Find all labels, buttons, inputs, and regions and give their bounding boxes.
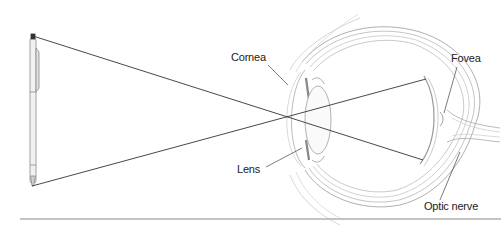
ray-bottom-to-top bbox=[32, 79, 426, 186]
label-fovea: Fovea bbox=[451, 52, 481, 64]
eye-diagram: Cornea Lens Fovea Optic nerve bbox=[0, 0, 501, 233]
pen-illustration bbox=[30, 34, 39, 186]
diagram-canvas bbox=[0, 0, 501, 233]
label-leaders bbox=[266, 65, 460, 200]
ray-top-to-bottom bbox=[33, 36, 423, 160]
label-cornea: Cornea bbox=[231, 51, 266, 63]
label-optic-nerve: Optic nerve bbox=[424, 200, 478, 212]
label-lens: Lens bbox=[237, 163, 260, 175]
eye-illustration bbox=[287, 14, 500, 225]
light-rays bbox=[32, 36, 426, 186]
